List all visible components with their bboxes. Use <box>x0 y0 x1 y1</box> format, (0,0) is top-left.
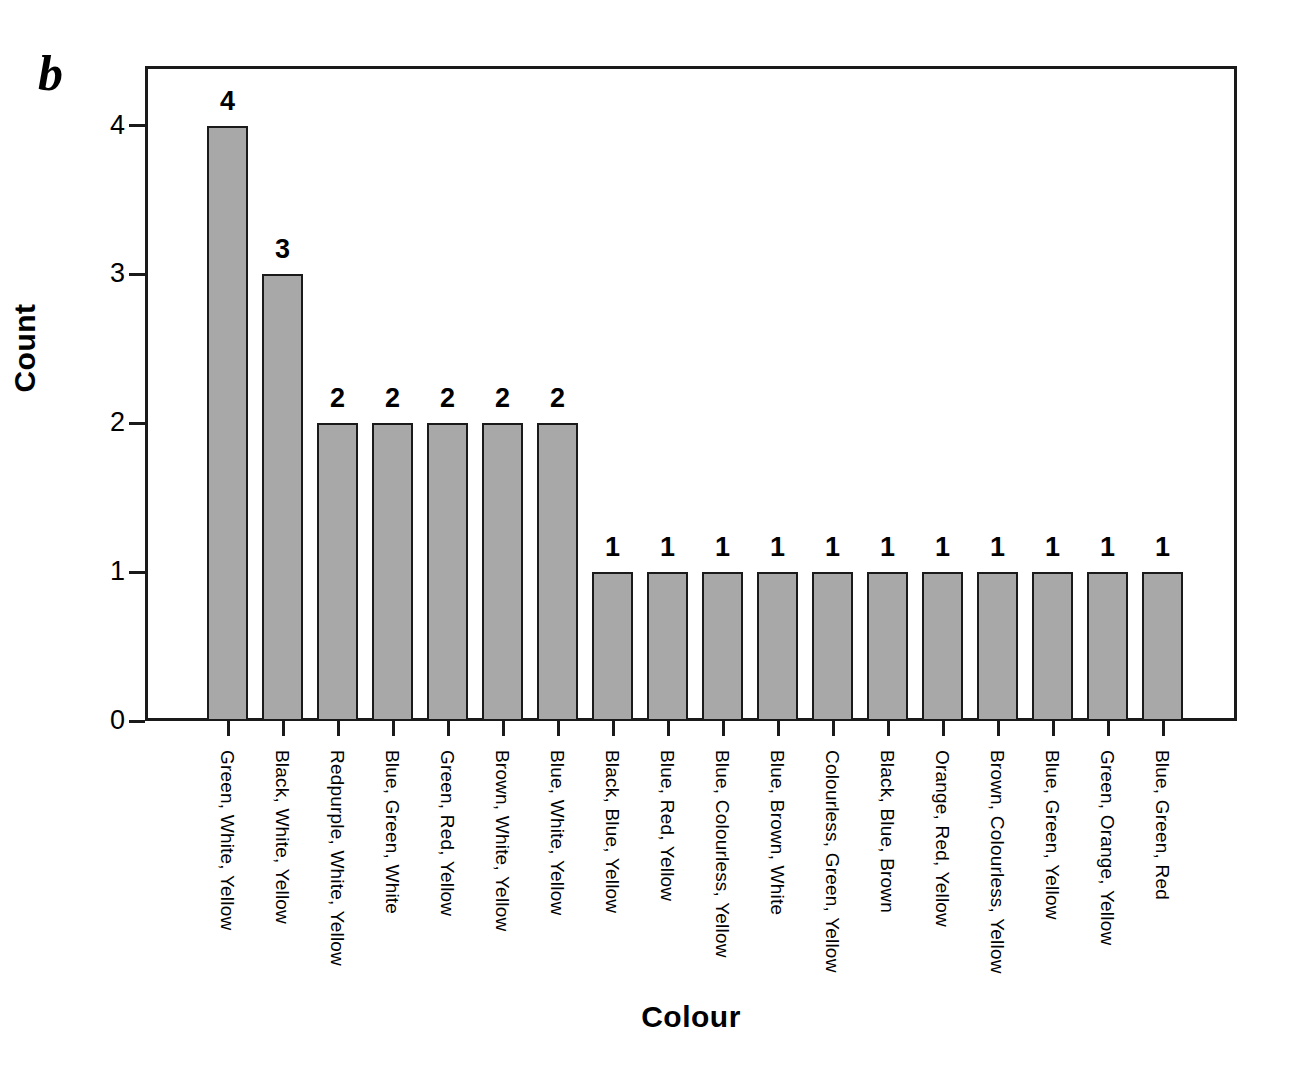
x-axis-tick-mark <box>942 721 945 736</box>
x-axis-tick-mark <box>557 721 560 736</box>
bar <box>427 423 468 721</box>
bar <box>922 572 963 721</box>
x-axis-tick-label: Blue, Red, Yellow <box>658 750 677 901</box>
bar-group: 1Black, Blue, Brown <box>867 66 908 721</box>
x-axis-tick-label: Green, Red, Yellow <box>438 750 457 916</box>
bar-group: 2Green, Red, Yellow <box>427 66 468 721</box>
y-axis-tick-label: 0 <box>83 704 125 736</box>
bar-group: 1Orange, Red, Yellow <box>922 66 963 721</box>
bar <box>592 572 633 721</box>
bar-group: 1Black, Blue, Yellow <box>592 66 633 721</box>
x-axis-tick-label: Black, Blue, Yellow <box>603 750 622 913</box>
bar <box>262 274 303 721</box>
x-axis-tick-label: Colourless, Green, Yellow <box>823 750 842 973</box>
x-axis-tick-mark <box>997 721 1000 736</box>
x-axis-tick-label: Black, White, Yellow <box>273 750 292 924</box>
y-axis-tick-label: 2 <box>83 406 125 438</box>
bar <box>537 423 578 721</box>
x-axis-tick-label: Redpurple, White, Yellow <box>328 750 347 966</box>
x-axis-tick-label: Blue, White, Yellow <box>548 750 567 915</box>
bar-group: 2Brown, White, Yellow <box>482 66 523 721</box>
x-axis-tick-label: Blue, Green, Red <box>1153 750 1172 900</box>
bar-value-label: 4 <box>193 86 262 116</box>
y-axis-tick-mark <box>129 124 145 127</box>
y-axis-tick-label: 3 <box>83 257 125 289</box>
x-axis-tick-mark <box>832 721 835 736</box>
bar-value-label: 2 <box>523 383 592 413</box>
x-axis-tick-mark <box>667 721 670 736</box>
x-axis-tick-mark <box>1052 721 1055 736</box>
x-axis-tick-mark <box>447 721 450 736</box>
x-axis-tick-label: Black, Blue, Brown <box>878 750 897 913</box>
bar <box>372 423 413 721</box>
bar <box>317 423 358 721</box>
bar <box>812 572 853 721</box>
y-axis-tick-mark <box>129 720 145 723</box>
y-axis-title: Count <box>8 0 42 748</box>
bar-group: 3Black, White, Yellow <box>262 66 303 721</box>
x-axis-tick-mark <box>887 721 890 736</box>
y-axis-tick-mark <box>129 273 145 276</box>
bar <box>207 126 248 721</box>
bar <box>1032 572 1073 721</box>
bar <box>757 572 798 721</box>
bar-group: 2Blue, White, Yellow <box>537 66 578 721</box>
x-axis-title: Colour <box>145 1000 1237 1034</box>
bar <box>702 572 743 721</box>
bar-group: 1Blue, Brown, White <box>757 66 798 721</box>
bar-value-label: 1 <box>1128 532 1197 562</box>
x-axis-tick-mark <box>282 721 285 736</box>
x-axis-tick-mark <box>612 721 615 736</box>
bar <box>647 572 688 721</box>
x-axis-tick-mark <box>1162 721 1165 736</box>
bar <box>1087 572 1128 721</box>
x-axis-tick-label: Brown, Colourless, Yellow <box>988 750 1007 974</box>
y-axis-tick-mark <box>129 571 145 574</box>
bar-group: 2Redpurple, White, Yellow <box>317 66 358 721</box>
x-axis-tick-label: Blue, Green, Yellow <box>1043 750 1062 920</box>
bar <box>867 572 908 721</box>
y-axis-tick-label: 4 <box>83 109 125 141</box>
x-axis-tick-mark <box>392 721 395 736</box>
bar <box>482 423 523 721</box>
x-axis-tick-mark <box>337 721 340 736</box>
x-axis-tick-label: Brown, White, Yellow <box>493 750 512 931</box>
x-axis-tick-label: Blue, Green, White <box>383 750 402 914</box>
bars-layer: 4Green, White, Yellow3Black, White, Yell… <box>145 66 1237 721</box>
x-axis-tick-mark <box>227 721 230 736</box>
x-axis-tick-label: Green, White, Yellow <box>218 750 237 930</box>
x-axis-tick-label: Blue, Brown, White <box>768 750 787 915</box>
bar-group: 2Blue, Green, White <box>372 66 413 721</box>
x-axis-tick-label: Green, Orange, Yellow <box>1098 750 1117 945</box>
bar-group: 1Blue, Green, Red <box>1142 66 1183 721</box>
bar-group: 1Blue, Red, Yellow <box>647 66 688 721</box>
bar-group: 1Brown, Colourless, Yellow <box>977 66 1018 721</box>
y-axis-tick-mark <box>129 422 145 425</box>
x-axis-tick-mark <box>1107 721 1110 736</box>
bar <box>1142 572 1183 721</box>
bar-group: 1Blue, Green, Yellow <box>1032 66 1073 721</box>
x-axis-tick-mark <box>722 721 725 736</box>
x-axis-tick-label: Orange, Red, Yellow <box>933 750 952 927</box>
bar-group: 1Green, Orange, Yellow <box>1087 66 1128 721</box>
y-axis-tick-label: 1 <box>83 555 125 587</box>
bar-group: 1Blue, Colourless, Yellow <box>702 66 743 721</box>
bar-group: 4Green, White, Yellow <box>207 66 248 721</box>
x-axis-tick-label: Blue, Colourless, Yellow <box>713 750 732 958</box>
bar-group: 1Colourless, Green, Yellow <box>812 66 853 721</box>
chart-page: b Count 01234 4Green, White, Yellow3Blac… <box>0 0 1292 1075</box>
x-axis-tick-mark <box>777 721 780 736</box>
bar <box>977 572 1018 721</box>
bar-value-label: 3 <box>248 234 317 264</box>
x-axis-tick-mark <box>502 721 505 736</box>
